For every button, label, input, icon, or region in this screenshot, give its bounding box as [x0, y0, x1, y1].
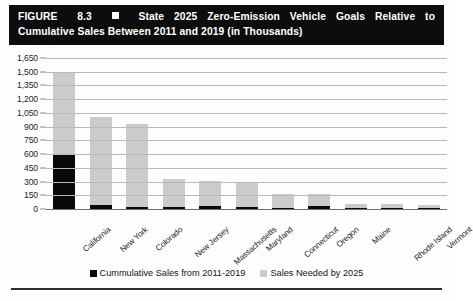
y-axis-tick-label: 300 [24, 177, 38, 187]
gridline [46, 168, 447, 169]
bar-sales-needed[interactable] [163, 179, 185, 209]
gridline [46, 195, 447, 196]
x-axis-label: New York [118, 225, 149, 254]
gridline [46, 58, 447, 59]
y-axis-tick-label: 1,050 [17, 108, 38, 118]
legend-label: Sales Needed by 2025 [270, 268, 363, 278]
y-axis-tick-label: 450 [24, 163, 38, 173]
y-axis-tick-label: 1,650 [17, 53, 38, 63]
filled-square-icon [112, 12, 119, 19]
legend-item[interactable]: Sales Needed by 2025 [260, 268, 363, 278]
gridline [46, 72, 447, 73]
figure-title-text-1: State 2025 Zero-Emission Vehicle Goals R… [138, 11, 435, 22]
y-axis: 01503004506007509001,0501,2001,3501,5001… [0, 50, 46, 225]
y-axis-tick-label: 150 [24, 190, 38, 200]
figure-title-banner: FIGURE 8.3 State 2025 Zero-Emission Vehi… [9, 5, 444, 45]
x-axis-label: Maine [370, 225, 392, 246]
x-axis-labels: CaliforniaNew YorkColoradoNew JerseyMass… [0, 225, 453, 270]
gridline [46, 182, 447, 183]
chart-grid [46, 50, 447, 225]
y-axis-tick-label: 1,500 [17, 67, 38, 77]
x-axis-label: New Jersey [193, 225, 230, 259]
bar-group[interactable] [163, 179, 185, 209]
figure-label: FIGURE [18, 11, 58, 22]
chart-plot-area: 01503004506007509001,0501,2001,3501,5001… [0, 50, 453, 225]
x-axis-label: Oregon [335, 225, 361, 249]
legend-label: Cummulative Sales from 2011-2019 [100, 268, 246, 278]
y-axis-tick-label: 900 [24, 122, 38, 132]
x-axis-label: California [81, 225, 112, 254]
y-axis-tick-label: 1,350 [17, 80, 38, 90]
gridline [46, 85, 447, 86]
chart-legend: Cummulative Sales from 2011-2019Sales Ne… [0, 268, 453, 278]
bottom-divider [11, 288, 442, 290]
x-axis-label: Colorado [154, 225, 184, 253]
gridline [46, 154, 447, 155]
y-axis-tick-label: 750 [24, 135, 38, 145]
gridline [46, 113, 447, 114]
legend-swatch-gray [260, 270, 267, 277]
figure-number: 8.3 [77, 11, 92, 22]
gridline [46, 140, 447, 141]
legend-swatch-black [90, 270, 97, 277]
legend-item[interactable]: Cummulative Sales from 2011-2019 [90, 268, 246, 278]
y-axis-tick-label: 600 [24, 149, 38, 159]
gridline [46, 99, 447, 100]
y-axis-tick-label: 0 [33, 204, 38, 214]
y-axis-tick-label: 1,200 [17, 94, 38, 104]
figure-title-line-1: FIGURE 8.3 State 2025 Zero-Emission Vehi… [18, 10, 435, 25]
gridline [46, 127, 447, 128]
axis-baseline [46, 209, 447, 210]
bars-layer [46, 50, 447, 225]
figure-title-line-2: Cumulative Sales Between 2011 and 2019 (… [18, 25, 435, 40]
bar-group[interactable] [308, 194, 330, 209]
